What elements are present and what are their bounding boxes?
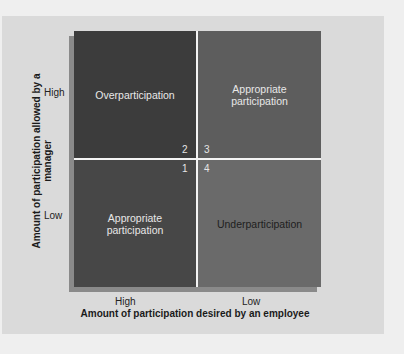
quadrant-underparticipation: Underparticipation bbox=[198, 160, 321, 287]
x-tick-high: High bbox=[115, 296, 136, 307]
quadrant-number-3: 3 bbox=[204, 144, 210, 155]
quadrant-label: Appropriate participation bbox=[220, 83, 300, 107]
y-tick-low: Low bbox=[44, 210, 62, 221]
x-tick-low: Low bbox=[242, 296, 260, 307]
quadrant-appropriate-high: Appropriate participation bbox=[198, 31, 321, 158]
quadrant-number-2: 2 bbox=[182, 144, 188, 155]
x-axis-label: Amount of participation desired by an em… bbox=[60, 308, 330, 319]
horizontal-divider bbox=[74, 158, 321, 160]
quadrant-number-1: 1 bbox=[182, 163, 188, 174]
y-tick-high: High bbox=[44, 87, 65, 98]
quadrant-number-4: 4 bbox=[204, 163, 210, 174]
quadrant-label: Appropriate participation bbox=[95, 212, 175, 236]
participation-matrix: Overparticipation Appropriate participat… bbox=[74, 31, 321, 287]
quadrant-overparticipation: Overparticipation bbox=[74, 31, 196, 158]
quadrant-appropriate-low: Appropriate participation bbox=[74, 160, 196, 287]
quadrant-label: Underparticipation bbox=[217, 218, 302, 230]
quadrant-label: Overparticipation bbox=[95, 89, 174, 101]
